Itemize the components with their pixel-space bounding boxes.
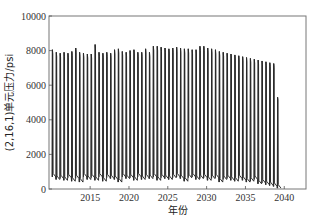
y-tick-label: 6000 xyxy=(26,80,46,91)
pressure-chart: 201520202025203020352040 020004000600080… xyxy=(0,0,315,223)
x-tick-label: 2030 xyxy=(197,192,217,203)
x-axis-title: 年份 xyxy=(168,204,188,216)
x-tick-label: 2015 xyxy=(80,192,100,203)
x-tick-label: 2040 xyxy=(274,192,294,203)
y-tick-label: 10000 xyxy=(21,11,46,22)
y-tick-label: 4000 xyxy=(26,114,46,125)
x-tick-label: 2035 xyxy=(235,192,255,203)
y-axis: 0200040006000800010000 xyxy=(21,11,52,195)
x-tick-label: 2025 xyxy=(158,192,178,203)
y-tick-label: 2000 xyxy=(26,149,46,160)
x-tick-label: 2020 xyxy=(119,192,139,203)
plot-area xyxy=(52,45,281,189)
y-tick-label: 0 xyxy=(41,184,46,195)
y-axis-title: (2,16,1)单元压力/psi xyxy=(3,54,15,151)
y-tick-label: 8000 xyxy=(26,45,46,56)
